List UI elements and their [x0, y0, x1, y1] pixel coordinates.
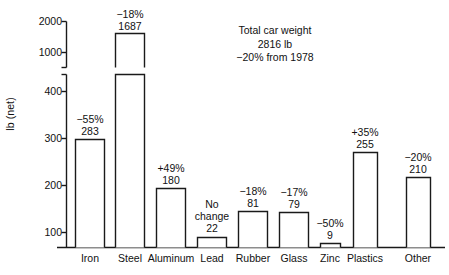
- bar-label-other: −20% 210: [388, 151, 448, 175]
- bar-zinc: [321, 244, 341, 248]
- x-category-label-other: Other: [388, 253, 448, 264]
- annotation-line-1: Total car weight: [200, 24, 350, 38]
- bar-label-aluminum: +49% 180: [141, 162, 201, 186]
- bar-lead: [198, 238, 227, 248]
- bar-value-steel: 1687: [100, 20, 160, 32]
- bar-label-plastics: +35% 255: [335, 126, 395, 150]
- bar-change-zinc: −50%: [300, 217, 360, 229]
- bar-change-steel: −18%: [100, 8, 160, 20]
- bar-value-lead: 22: [182, 222, 242, 234]
- bar-label-iron: −55% 283: [60, 113, 120, 137]
- bar-change-other: −20%: [388, 151, 448, 163]
- bar-steel-lower: [116, 75, 145, 248]
- x-category-label-plastics: Plastics: [335, 253, 395, 264]
- chart-annotation: Total car weight 2816 lb −20% from 1978: [200, 24, 350, 65]
- annotation-line-2: 2816 lb: [200, 38, 350, 52]
- bar-label-steel: −18% 1687: [100, 8, 160, 32]
- bar-change-glass: −17%: [264, 186, 324, 198]
- bar-value-plastics: 255: [335, 138, 395, 150]
- bar-label-zinc: −50% 9: [300, 217, 360, 241]
- bar-change-iron: −55%: [60, 113, 120, 125]
- bar-steel-upper: [116, 34, 145, 68]
- bar-value-zinc: 9: [300, 229, 360, 241]
- bar-value-other: 210: [388, 163, 448, 175]
- bar-iron: [76, 140, 105, 248]
- bar-label-glass: −17% 79: [264, 186, 324, 210]
- bar-change-plastics: +35%: [335, 126, 395, 138]
- annotation-line-3: −20% from 1978: [200, 51, 350, 65]
- bar-change2-lead: change: [182, 210, 242, 222]
- bar-rubber: [239, 212, 268, 248]
- bar-value-aluminum: 180: [141, 174, 201, 186]
- bar-chart: lb (net) 2000 1000 400 300 200 100: [0, 0, 449, 275]
- bar-change-aluminum: +49%: [141, 162, 201, 174]
- bar-value-glass: 79: [264, 198, 324, 210]
- bar-value-iron: 283: [60, 125, 120, 137]
- bar-other: [407, 178, 431, 248]
